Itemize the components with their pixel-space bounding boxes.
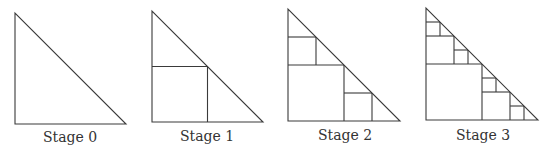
stage-0-triangle	[15, 13, 126, 124]
stage-0-label: Stage 0	[43, 129, 97, 145]
stage-1-label: Stage 1	[180, 128, 234, 144]
stage-3-label: Stage 3	[456, 127, 510, 143]
stage-2-label: Stage 2	[318, 127, 372, 143]
